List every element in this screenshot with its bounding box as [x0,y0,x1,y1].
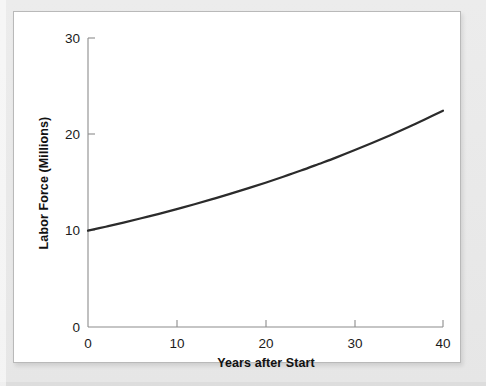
y-tick-label-20: 20 [65,127,80,142]
y-axis-ticks [88,38,95,230]
x-tick-label-20: 20 [258,336,273,351]
y-axis-title: Labor Force (Millions) [37,117,51,250]
x-tick-label-0: 0 [84,336,92,351]
y-tick-label-30: 30 [65,31,80,46]
x-tick-label-30: 30 [347,336,362,351]
figure-background: 30 20 10 0 0 10 20 30 40 Years after Sta… [0,0,486,386]
y-tick-label-10: 10 [65,223,80,238]
x-axis-title: Years after Start [217,356,315,370]
x-tick-label-40: 40 [435,336,450,351]
chart-plot: 30 20 10 0 0 10 20 30 40 Years after Sta… [0,0,486,386]
labor-force-curve [88,111,443,231]
x-axis-ticks [177,320,443,327]
y-tick-label-0: 0 [72,320,80,335]
x-tick-label-10: 10 [169,336,184,351]
